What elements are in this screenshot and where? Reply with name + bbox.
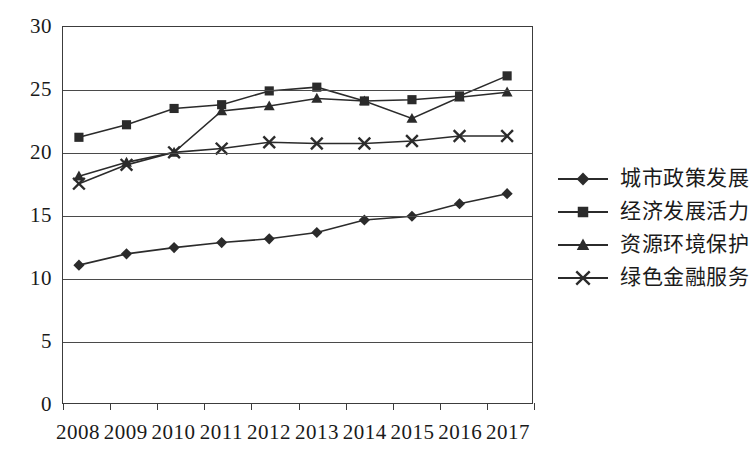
y-axis-tick-label: 0 xyxy=(41,394,52,415)
x-axis-tick-mark xyxy=(299,403,300,410)
y-axis-tick-label: 5 xyxy=(41,331,52,352)
legend-label: 城市政策发展 xyxy=(610,168,749,189)
x-axis-tick-mark xyxy=(487,403,488,410)
series-1 xyxy=(73,188,512,271)
legend-item-4[interactable]: 绿色金融服务 xyxy=(556,261,754,294)
data-point-diamond xyxy=(502,188,513,199)
legend-marker-square-icon xyxy=(556,201,610,223)
data-point-triangle xyxy=(311,93,322,103)
data-point-diamond xyxy=(169,242,180,253)
x-axis-tick-mark xyxy=(251,403,252,410)
data-point-diamond xyxy=(311,227,322,238)
gridline xyxy=(63,342,532,343)
gridline xyxy=(63,153,532,154)
y-axis-tick-label: 25 xyxy=(30,79,52,100)
legend-marker-cross-icon xyxy=(556,267,610,289)
x-axis-tick-mark xyxy=(393,403,394,410)
x-axis-tick-mark xyxy=(157,403,158,410)
x-axis-tick-label: 2011 xyxy=(200,422,243,443)
legend-label: 经济发展活力 xyxy=(610,201,749,222)
data-point-diamond xyxy=(264,233,275,244)
data-point-square xyxy=(170,104,179,113)
data-point-diamond xyxy=(216,237,227,248)
data-point-square xyxy=(407,95,416,104)
data-point-square xyxy=(122,120,131,129)
legend-item-1[interactable]: 城市政策发展 xyxy=(556,162,754,195)
x-axis-tick-label: 2014 xyxy=(343,422,387,443)
x-axis-tick-label: 2013 xyxy=(295,422,339,443)
y-axis-tick-label: 15 xyxy=(30,205,52,226)
y-axis-tick-label: 10 xyxy=(30,268,52,289)
legend-label: 资源环境保护 xyxy=(610,234,749,255)
x-axis-labels: 2008200920102011201220132014201520162017 xyxy=(62,410,533,450)
data-point-diamond xyxy=(454,198,465,209)
x-axis-tick-mark xyxy=(204,403,205,410)
gridline xyxy=(63,216,532,217)
plot-area xyxy=(62,26,533,404)
legend-item-2[interactable]: 经济发展活力 xyxy=(556,195,754,228)
x-axis-tick-mark xyxy=(440,403,441,410)
data-point-diamond xyxy=(73,260,84,271)
x-axis-tick-mark xyxy=(63,403,64,410)
gridline xyxy=(63,90,532,91)
data-point-diamond xyxy=(577,172,590,185)
x-axis-tick-mark xyxy=(346,403,347,410)
y-axis-tick-label: 30 xyxy=(30,16,52,37)
series-line xyxy=(79,92,507,176)
data-point-triangle xyxy=(502,87,513,97)
legend-item-3[interactable]: 资源环境保护 xyxy=(556,228,754,261)
data-point-square xyxy=(74,133,83,142)
series-line xyxy=(79,136,507,184)
series-2 xyxy=(74,71,511,142)
data-point-square xyxy=(503,71,512,80)
series-line xyxy=(79,194,507,265)
chart-legend: 城市政策发展经济发展活力资源环境保护绿色金融服务 xyxy=(556,162,754,294)
line-chart: 302520151050 200820092010201120122013201… xyxy=(0,0,754,463)
x-axis-tick-label: 2008 xyxy=(56,422,100,443)
y-axis-tick-label: 20 xyxy=(30,142,52,163)
x-axis-tick-label: 2009 xyxy=(104,422,148,443)
data-point-square xyxy=(578,206,588,216)
x-axis-tick-label: 2015 xyxy=(390,422,434,443)
legend-marker-triangle-icon xyxy=(556,234,610,256)
x-axis-tick-mark xyxy=(534,403,535,410)
x-axis-tick-label: 2012 xyxy=(247,422,291,443)
series-3 xyxy=(73,87,512,181)
x-axis-tick-label: 2016 xyxy=(438,422,482,443)
legend-marker-diamond-icon xyxy=(556,168,610,190)
series-line xyxy=(79,76,507,137)
x-axis-tick-mark xyxy=(110,403,111,410)
chart-figure: 302520151050 200820092010201120122013201… xyxy=(0,0,754,463)
data-point-diamond xyxy=(121,248,132,259)
gridline xyxy=(63,279,532,280)
data-series-layer xyxy=(63,27,532,403)
x-axis-tick-label: 2010 xyxy=(152,422,196,443)
legend-label: 绿色金融服务 xyxy=(610,267,749,288)
y-axis-labels: 302520151050 xyxy=(0,0,52,463)
x-axis-tick-label: 2017 xyxy=(486,422,530,443)
